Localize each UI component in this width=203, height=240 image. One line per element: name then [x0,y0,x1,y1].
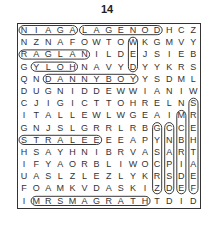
letter-cell[interactable]: Z [30,36,42,48]
letter-cell[interactable]: S [151,146,163,158]
letter-cell[interactable]: R [103,122,115,134]
letter-cell[interactable]: U [18,170,30,182]
letter-cell[interactable]: W [127,36,139,48]
letter-cell[interactable]: N [163,134,175,146]
letter-cell[interactable]: E [175,48,187,60]
letter-cell[interactable]: F [66,36,78,48]
letter-cell[interactable]: L [66,109,78,121]
letter-cell[interactable]: I [30,24,42,36]
letter-cell[interactable]: H [127,97,139,109]
letter-cell[interactable]: E [115,134,127,146]
letter-cell[interactable]: D [187,195,199,207]
letter-cell[interactable]: R [115,146,127,158]
letter-cell[interactable]: N [127,24,139,36]
letter-cell[interactable]: S [151,73,163,85]
letter-cell[interactable]: B [139,122,151,134]
letter-cell[interactable]: F [18,182,30,194]
letter-cell[interactable]: N [78,73,90,85]
letter-cell[interactable]: T [103,36,115,48]
letter-cell[interactable]: I [91,146,103,158]
letter-cell[interactable]: L [163,97,175,109]
letter-cell[interactable]: A [66,24,78,36]
letter-cell[interactable]: I [163,109,175,121]
letter-cell[interactable]: A [42,109,54,121]
letter-cell[interactable]: Y [115,61,127,73]
letter-cell[interactable]: S [163,170,175,182]
letter-cell[interactable]: G [127,109,139,121]
letter-cell[interactable]: A [66,48,78,60]
letter-cell[interactable]: A [42,146,54,158]
letter-cell[interactable]: E [91,170,103,182]
letter-cell[interactable]: E [103,85,115,97]
letter-cell[interactable]: H [66,146,78,158]
letter-cell[interactable]: Q [18,73,30,85]
letter-cell[interactable]: O [115,73,127,85]
letter-cell[interactable]: T [127,195,139,207]
letter-cell[interactable]: D [127,61,139,73]
letter-cell[interactable]: A [91,24,103,36]
letter-cell[interactable]: E [103,134,115,146]
letter-cell[interactable]: O [30,182,42,194]
letter-cell[interactable]: Z [66,170,78,182]
letter-cell[interactable]: L [115,170,127,182]
letter-cell[interactable]: R [151,170,163,182]
letter-cell[interactable]: Y [151,134,163,146]
letter-cell[interactable]: C [163,122,175,134]
letter-cell[interactable]: N [18,36,30,48]
letter-cell[interactable]: Y [139,73,151,85]
letter-cell[interactable]: A [151,85,163,97]
letter-cell[interactable]: F [30,158,42,170]
letter-cell[interactable]: L [78,24,90,36]
letter-cell[interactable]: N [78,146,90,158]
letter-cell[interactable]: V [127,146,139,158]
letter-cell[interactable]: C [78,97,90,109]
letter-cell[interactable]: W [91,109,103,121]
letter-cell[interactable]: I [18,109,30,121]
letter-cell[interactable]: A [163,146,175,158]
letter-cell[interactable]: A [103,182,115,194]
letter-cell[interactable]: A [91,61,103,73]
letter-cell[interactable]: A [30,170,42,182]
letter-cell[interactable]: K [139,170,151,182]
letter-cell[interactable]: L [103,48,115,60]
letter-cell[interactable]: D [115,48,127,60]
letter-cell[interactable]: B [91,158,103,170]
letter-cell[interactable]: G [103,24,115,36]
letter-cell[interactable]: I [163,48,175,60]
letter-cell[interactable]: S [30,146,42,158]
letter-cell[interactable]: T [91,97,103,109]
letter-cell[interactable]: R [78,158,90,170]
letter-cell[interactable]: R [187,109,199,121]
letter-cell[interactable]: Y [139,61,151,73]
letter-cell[interactable]: I [18,158,30,170]
letter-cell[interactable]: S [115,182,127,194]
letter-cell[interactable]: H [139,195,151,207]
letter-cell[interactable]: O [139,158,151,170]
letter-cell[interactable]: Y [54,146,66,158]
letter-cell[interactable]: R [139,97,151,109]
letter-cell[interactable]: M [66,195,78,207]
letter-cell[interactable]: C [18,97,30,109]
letter-cell[interactable]: A [127,134,139,146]
letter-cell[interactable]: R [91,122,103,134]
letter-cell[interactable]: J [139,48,151,60]
letter-cell[interactable]: H [66,61,78,73]
letter-cell[interactable]: N [42,36,54,48]
letter-cell[interactable]: I [175,158,187,170]
letter-cell[interactable]: S [187,97,199,109]
letter-cell[interactable]: C [175,122,187,134]
letter-cell[interactable]: R [127,122,139,134]
letter-cell[interactable]: R [175,61,187,73]
letter-cell[interactable]: I [175,85,187,97]
letter-cell[interactable]: T [30,109,42,121]
letter-cell[interactable]: L [66,134,78,146]
letter-cell[interactable]: E [91,134,103,146]
letter-cell[interactable]: I [175,195,187,207]
letter-cell[interactable]: I [66,85,78,97]
letter-cell[interactable]: S [54,195,66,207]
letter-cell[interactable]: H [163,24,175,36]
letter-cell[interactable]: J [30,97,42,109]
letter-cell[interactable]: E [127,48,139,60]
letter-cell[interactable]: Y [127,73,139,85]
letter-cell[interactable]: I [115,158,127,170]
